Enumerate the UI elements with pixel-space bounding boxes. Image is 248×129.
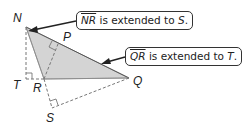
- label-n: N: [13, 11, 22, 25]
- period: .: [234, 50, 237, 62]
- callout-qr-extended: QR is extended to T.: [125, 47, 242, 66]
- arrowhead-2: [101, 58, 111, 64]
- callout-arrow-1: [33, 21, 76, 30]
- label-t: T: [13, 78, 22, 92]
- point-s: S: [178, 14, 185, 26]
- label-p: P: [63, 30, 71, 44]
- callout-text: is extended to: [96, 14, 178, 26]
- callout-nr-extended: NR is extended to S.: [76, 11, 193, 30]
- extension-rs: [44, 79, 52, 108]
- segment-nr: NR: [81, 14, 96, 26]
- period: .: [185, 14, 188, 26]
- label-s: S: [46, 111, 54, 125]
- callout-text: is extended to: [146, 50, 228, 62]
- altitude-qs: [52, 78, 129, 108]
- label-r: R: [33, 81, 42, 95]
- right-angle-t: [26, 73, 32, 79]
- label-q: Q: [133, 74, 142, 88]
- segment-qr: QR: [130, 50, 146, 62]
